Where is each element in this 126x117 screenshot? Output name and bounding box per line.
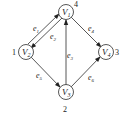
edge-e5-label: e5: [36, 71, 43, 81]
node-v2-number: 1: [12, 48, 16, 57]
edge-e3-label: e3: [67, 51, 74, 61]
graph-svg: V1 V2 V3 V4 4 1 2 3 e1 e2 e3 e4 e5 e6: [0, 0, 126, 117]
edge-e1-label: e1: [33, 24, 39, 34]
edge-e2-label: e2: [50, 32, 57, 42]
node-v1-number: 4: [74, 0, 78, 9]
edge-e4-label: e4: [88, 24, 95, 34]
graph-diagram: V1 V2 V3 V4 4 1 2 3 e1 e2 e3 e4 e5 e6: [0, 0, 126, 117]
edge-e6-label: e6: [88, 73, 95, 83]
edge-e6: [71, 57, 100, 87]
edge-e4: [71, 17, 101, 47]
node-v3-number: 2: [63, 105, 67, 114]
node-v4-number: 3: [115, 48, 119, 57]
